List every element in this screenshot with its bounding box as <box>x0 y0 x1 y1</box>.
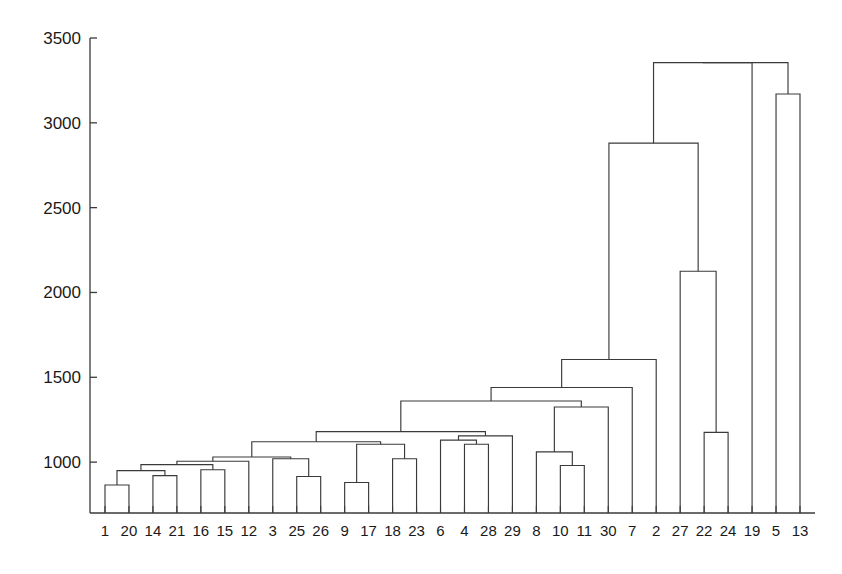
dendrogram-link <box>560 466 584 514</box>
leaf-label: 28 <box>480 522 497 539</box>
y-axis-tick-label: 2500 <box>43 199 81 218</box>
dendrogram-link <box>458 436 512 513</box>
dendrogram-link <box>654 63 753 513</box>
leaf-label: 6 <box>436 522 444 539</box>
dendrogram-link <box>554 407 608 513</box>
dendrogram-link <box>345 482 369 513</box>
dendrogram-svg: 100015002000250030003500 120142116151232… <box>0 0 842 574</box>
dendrogram-link <box>464 444 488 513</box>
leaf-label: 19 <box>744 522 761 539</box>
leaf-label: 16 <box>193 522 210 539</box>
leaf-label: 14 <box>145 522 162 539</box>
leaf-label: 21 <box>169 522 186 539</box>
leaf-label: 29 <box>504 522 521 539</box>
dendrogram-link <box>357 444 405 482</box>
leaf-label: 1 <box>101 522 109 539</box>
leaf-label: 24 <box>720 522 737 539</box>
leaf-label: 3 <box>269 522 277 539</box>
leaf-label: 12 <box>240 522 257 539</box>
y-axis-tick-label: 1500 <box>43 368 81 387</box>
leaf-label: 27 <box>672 522 689 539</box>
dendrogram-link <box>536 452 572 513</box>
y-axis-tick-label: 3500 <box>43 29 81 48</box>
dendrogram-link <box>273 459 309 513</box>
dendrogram-link <box>393 459 417 513</box>
leaf-label: 10 <box>552 522 569 539</box>
y-axis-tick-label: 1000 <box>43 453 81 472</box>
leaf-label: 11 <box>577 522 593 539</box>
dendrogram-link <box>680 271 716 513</box>
leaf-label: 30 <box>600 522 617 539</box>
leaf-label: 13 <box>792 522 809 539</box>
y-axis <box>90 38 97 513</box>
leaf-label: 7 <box>628 522 636 539</box>
leaf-label: 26 <box>312 522 329 539</box>
dendrogram-link <box>201 470 225 513</box>
dendrogram-link <box>776 94 800 513</box>
leaf-label: 18 <box>384 522 401 539</box>
dendrogram-plot: 100015002000250030003500 120142116151232… <box>0 0 842 574</box>
dendrogram-link <box>609 143 698 359</box>
y-axis-tick-label: 2000 <box>43 283 81 302</box>
leaf-label: 9 <box>340 522 348 539</box>
leaf-ticks <box>105 506 800 513</box>
leaf-label: 8 <box>532 522 540 539</box>
leaf-label: 5 <box>772 522 780 539</box>
leaf-label: 20 <box>121 522 138 539</box>
y-axis-tick-label: 3000 <box>43 114 81 133</box>
dendrogram-links <box>105 63 800 513</box>
leaf-labels: 1201421161512325269171823642829810113072… <box>101 522 809 539</box>
y-axis-tick-labels: 100015002000250030003500 <box>43 29 81 472</box>
leaf-label: 25 <box>288 522 305 539</box>
dendrogram-link <box>105 485 129 513</box>
leaf-label: 23 <box>408 522 425 539</box>
leaf-label: 4 <box>460 522 468 539</box>
dendrogram-link <box>297 477 321 513</box>
dendrogram-link <box>117 471 165 485</box>
dendrogram-link <box>562 359 657 513</box>
leaf-label: 2 <box>652 522 660 539</box>
leaf-label: 17 <box>360 522 377 539</box>
dendrogram-link <box>703 63 788 94</box>
leaf-label: 22 <box>696 522 713 539</box>
leaf-label: 15 <box>216 522 233 539</box>
dendrogram-link <box>704 432 728 513</box>
dendrogram-link <box>153 476 177 513</box>
dendrogram-link <box>441 440 477 513</box>
